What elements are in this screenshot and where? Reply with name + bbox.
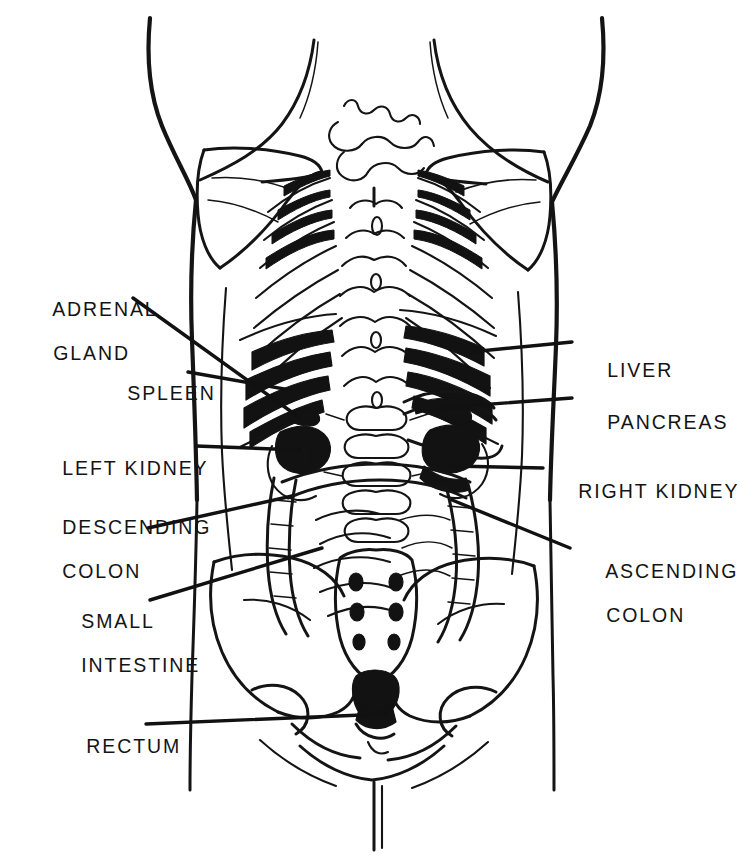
left-kidney-organ [268, 426, 331, 500]
label-left-kidney-line1: LEFT KIDNEY [62, 457, 208, 479]
label-rectum: RECTUM [57, 713, 181, 779]
label-descending-colon-line2: COLON [62, 560, 141, 582]
label-liver-line1: LIVER [607, 359, 673, 381]
spine-vertebrae [324, 100, 434, 542]
label-ascending-colon: ASCENDING COLON [577, 538, 738, 648]
leader-rectum [146, 714, 386, 724]
pelvis-bones [211, 549, 538, 788]
label-ascending-colon-line1: ASCENDING [605, 560, 738, 582]
label-left-kidney: LEFT KIDNEY [33, 435, 209, 501]
label-small-intestine: SMALL INTESTINE [52, 588, 200, 698]
label-adrenal-gland-line1: ADRENAL [52, 298, 157, 320]
label-small-intestine-line1: SMALL [81, 610, 154, 632]
anatomy-figure: ADRENAL GLAND SPLEEN LEFT KIDNEY DESCEND… [0, 0, 739, 859]
leader-right-kidney [452, 466, 543, 468]
label-spleen-line1: SPLEEN [127, 382, 215, 404]
label-pancreas: PANCREAS [578, 389, 728, 455]
label-right-kidney-line1: RIGHT KIDNEY [578, 480, 739, 502]
spleen-organ [238, 314, 336, 448]
rectum-organ [353, 670, 400, 754]
coccyx-tail [374, 782, 382, 850]
label-spleen: SPLEEN [98, 360, 216, 426]
label-small-intestine-line2: INTESTINE [81, 654, 200, 676]
label-right-kidney: RIGHT KIDNEY [549, 458, 739, 524]
label-ascending-colon-line2: COLON [606, 604, 685, 626]
label-pancreas-line1: PANCREAS [607, 411, 728, 433]
label-rectum-line1: RECTUM [86, 735, 181, 757]
label-descending-colon-line1: DESCENDING [62, 516, 211, 538]
